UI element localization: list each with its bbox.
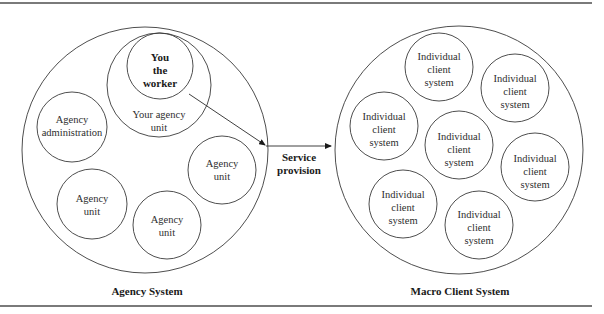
client-system-1: Individual client system: [405, 33, 473, 101]
client-system-4: Individual client system: [425, 111, 493, 179]
client-label-3: system: [520, 179, 549, 190]
agency-unit-label-2: unit: [214, 171, 230, 182]
worker-label-2: the: [153, 64, 168, 76]
client-label-2: client: [391, 202, 414, 213]
client-label-2: client: [372, 124, 395, 135]
agency-unit-label-1: Agency: [76, 193, 109, 204]
client-label-1: Individual: [362, 111, 405, 122]
client-label-3: system: [388, 215, 417, 226]
worker-label-1: You: [151, 51, 169, 63]
worker-to-provision-arrow: [189, 94, 265, 145]
agency-unit-label-1: Agency: [151, 214, 184, 225]
agency-unit-left: Agency unit: [57, 169, 127, 239]
agency-unit-label-2: unit: [84, 206, 100, 217]
client-label-3: system: [464, 235, 493, 246]
your-agency-unit-label-1: Your agency: [133, 109, 187, 120]
macro-client-system-title: Macro Client System: [411, 285, 510, 297]
client-system-6: Individual client system: [369, 170, 437, 238]
client-label-1: Individual: [513, 153, 556, 164]
client-system-7: Individual client system: [445, 191, 513, 259]
client-label-1: Individual: [437, 131, 480, 142]
agency-administration-label-2: administration: [42, 127, 103, 138]
client-system-5: Individual client system: [501, 133, 569, 201]
client-label-1: Individual: [493, 73, 536, 84]
agency-unit-right: Agency unit: [188, 136, 256, 204]
agency-unit-circle: [188, 136, 256, 204]
service-provision-label-2: provision: [277, 164, 321, 176]
worker-label-3: worker: [143, 77, 177, 89]
systems-diagram: Your agency unit You the worker Agency a…: [0, 0, 604, 314]
agency-administration-label-1: Agency: [56, 114, 89, 125]
client-label-3: system: [424, 77, 453, 88]
agency-system-title: Agency System: [111, 285, 182, 297]
agency-unit-circle: [57, 169, 127, 239]
agency-administration: Agency administration: [37, 92, 107, 162]
client-system-2: Individual client system: [481, 54, 549, 122]
client-system-3: Individual client system: [350, 92, 418, 160]
client-label-2: client: [503, 86, 526, 97]
client-label-1: Individual: [381, 189, 424, 200]
agency-system-boundary: [22, 27, 268, 273]
macro-client-system: Individual client system Individual clie…: [335, 26, 583, 297]
client-label-1: Individual: [417, 51, 460, 62]
client-label-2: client: [523, 166, 546, 177]
client-label-2: client: [467, 222, 490, 233]
agency-unit-circle: [133, 191, 201, 259]
client-label-1: Individual: [457, 209, 500, 220]
client-label-2: client: [427, 64, 450, 75]
service-provision-label-1: Service: [282, 151, 316, 163]
client-label-2: client: [447, 144, 470, 155]
agency-system: Your agency unit You the worker Agency a…: [22, 27, 268, 297]
worker: You the worker: [127, 33, 193, 99]
agency-unit-label-1: Agency: [206, 158, 239, 169]
client-label-3: system: [369, 137, 398, 148]
agency-unit-bottom: Agency unit: [133, 191, 201, 259]
agency-unit-label-2: unit: [159, 227, 175, 238]
client-label-3: system: [500, 99, 529, 110]
your-agency-unit-label-2: unit: [151, 122, 167, 133]
client-label-3: system: [444, 157, 473, 168]
